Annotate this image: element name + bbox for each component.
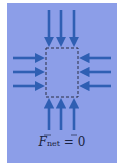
net-subscript: net xyxy=(47,139,60,148)
right-arrows xyxy=(83,58,111,86)
bottom-arrows xyxy=(49,102,74,130)
left-arrows xyxy=(13,58,41,86)
net-force-equation: Fnet = 0 xyxy=(0,135,124,149)
force-symbol: F xyxy=(39,135,47,149)
object-box xyxy=(46,48,78,97)
equals-sign: = xyxy=(64,135,74,149)
top-arrows xyxy=(49,10,74,43)
zero-vector: 0 xyxy=(78,135,86,149)
